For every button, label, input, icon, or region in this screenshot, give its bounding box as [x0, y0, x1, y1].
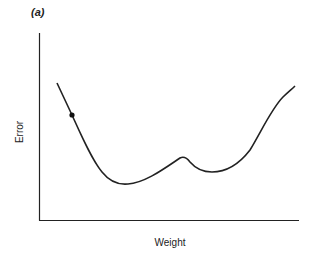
chart-plot: [0, 0, 314, 260]
current-weight-point: [69, 112, 74, 117]
error-curve: [57, 83, 295, 184]
